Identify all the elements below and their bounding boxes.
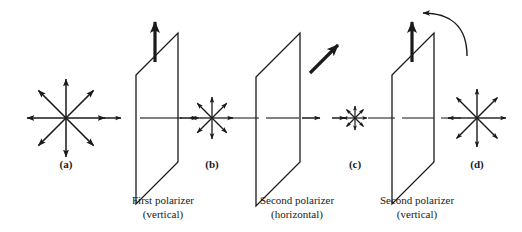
first-polarizer-caption: First polarizer (vertical): [132, 193, 194, 221]
panel-label-c: (c): [349, 158, 361, 170]
second-polarizer-horizontal-plate: [256, 33, 300, 206]
second-polarizer-vertical-caption-line2: (vertical): [380, 207, 454, 221]
second-polarizer-horizontal-caption-line2: (horizontal): [260, 207, 334, 221]
polarized-light-star-d: [448, 89, 506, 147]
panel-label-d: (d): [470, 158, 483, 170]
panel-label-a: (a): [60, 158, 73, 170]
polarized-light-star-b: [191, 97, 233, 139]
first-polarizer-caption-line1: First polarizer: [132, 194, 194, 206]
polarized-light-star-c: [343, 106, 367, 130]
second-polarizer-vertical-caption: Second polarizer (vertical): [380, 193, 454, 221]
rotation-curved-arrow: [423, 13, 467, 56]
second-polarizer-horizontal-axis-arrow: [310, 45, 338, 73]
polarization-diagram: (a) (b) (c) (d) First polarizer (vertica…: [0, 0, 522, 232]
second-polarizer-vertical-caption-line1: Second polarizer: [380, 194, 454, 206]
unpolarized-light-star: [27, 79, 105, 157]
first-polarizer-caption-line2: (vertical): [132, 207, 194, 221]
second-polarizer-horizontal-caption: Second polarizer (horizontal): [260, 193, 334, 221]
panel-label-b: (b): [205, 158, 218, 170]
second-polarizer-horizontal-caption-line1: Second polarizer: [260, 194, 334, 206]
